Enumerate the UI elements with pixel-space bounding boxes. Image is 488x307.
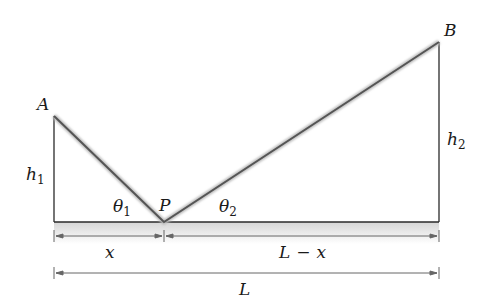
label-h2: h2: [447, 129, 466, 152]
reflection-diagram: A B P h1 h2 θ1 θ2 x L−x L: [0, 0, 488, 307]
label-x: x: [105, 242, 115, 262]
light-path: [54, 42, 439, 222]
point-label-b: B: [443, 20, 457, 40]
point-label-p: P: [158, 195, 171, 215]
label-h1: h1: [26, 164, 45, 187]
point-label-a: A: [35, 94, 49, 114]
label-l: L: [238, 279, 250, 299]
dimension-l: [54, 267, 439, 279]
label-theta2: θ2: [219, 196, 237, 219]
ground-surface: [54, 222, 439, 244]
label-l-minus-x: L−x: [278, 242, 327, 262]
label-theta1: θ1: [113, 196, 131, 219]
